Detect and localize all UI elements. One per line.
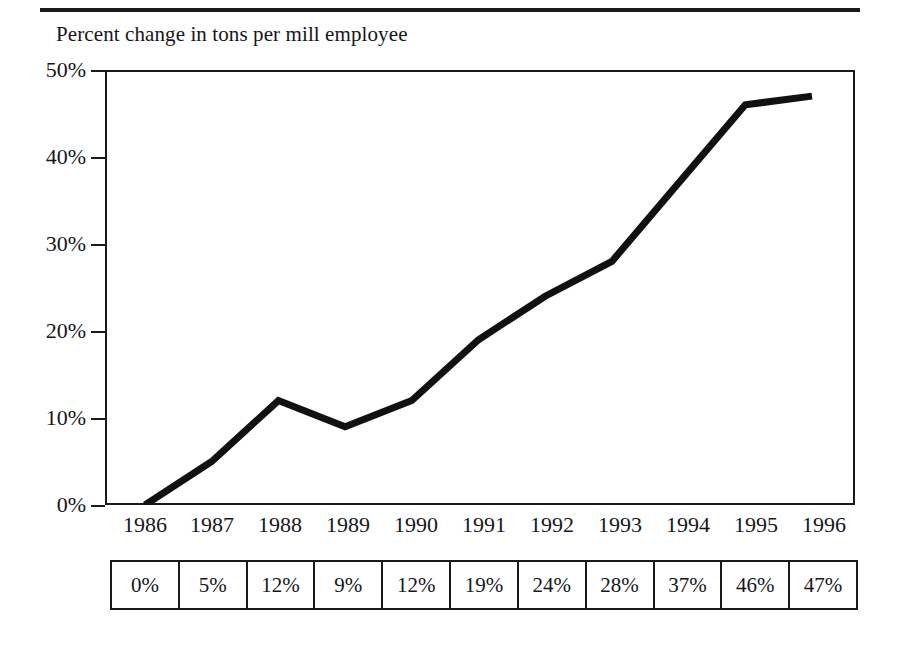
table-row: 0% 5% 12% 9% 12% 19% 24% 28% 37% 46% 47% [111,561,857,609]
y-tick-mark-40 [91,157,105,159]
y-tick-mark-0 [91,505,105,507]
table-cell-1993: 28% [586,561,654,609]
table-cell-1988: 12% [247,561,315,609]
y-tick-mark-50 [91,70,105,72]
x-axis-label-1990: 1990 [379,512,453,538]
y-axis-label-40-wrap: 40% [0,146,86,168]
y-tick-mark-10 [91,418,105,420]
x-axis-label-1993: 1993 [583,512,657,538]
series-line-chart [105,70,855,505]
y-axis-label-20-wrap: 20% [0,320,86,342]
y-axis-label-10: 10% [2,407,86,429]
y-axis-label-0: 0% [2,494,86,516]
table-cell-1987: 5% [179,561,247,609]
y-tick-mark-20 [91,331,105,333]
data-value-table: 0% 5% 12% 9% 12% 19% 24% 28% 37% 46% 47% [110,560,858,610]
table-cell-1992: 24% [518,561,586,609]
table-cell-1989: 9% [314,561,382,609]
y-axis-label-30-wrap: 30% [0,233,86,255]
x-axis-label-1996: 1996 [787,512,861,538]
y-axis-label-50-wrap: 50% [0,59,86,81]
x-axis-label-1989: 1989 [311,512,385,538]
y-tick-mark-30 [91,244,105,246]
x-axis-label-1987: 1987 [175,512,249,538]
y-axis-label-20: 20% [2,320,86,342]
table-cell-1995: 46% [721,561,789,609]
chart-figure: Percent change in tons per mill employee… [0,0,898,647]
chart-title: Percent change in tons per mill employee [56,21,408,47]
x-axis-label-1991: 1991 [447,512,521,538]
top-divider-rule [40,8,860,12]
x-axis-label-1992: 1992 [515,512,589,538]
x-axis-label-1994: 1994 [651,512,725,538]
y-axis-label-0-wrap: 0% [0,494,86,516]
x-axis-label-1986: 1986 [108,512,182,538]
x-axis-label-1988: 1988 [243,512,317,538]
table-cell-1996: 47% [789,561,857,609]
table-cell-1991: 19% [450,561,518,609]
table-cell-1986: 0% [111,561,179,609]
y-axis-label-40: 40% [2,146,86,168]
series-polyline [145,96,812,505]
x-axis-label-1995: 1995 [719,512,793,538]
y-axis-label-10-wrap: 10% [0,407,86,429]
y-axis-label-50: 50% [2,59,86,81]
y-axis-label-30: 30% [2,233,86,255]
table-cell-1994: 37% [654,561,722,609]
table-cell-1990: 12% [382,561,450,609]
